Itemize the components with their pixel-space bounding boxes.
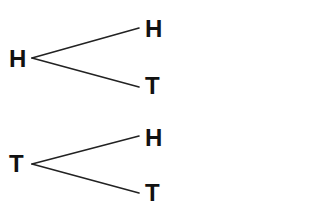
tree-root-t: T H T bbox=[9, 124, 162, 206]
branch-line-lower bbox=[32, 58, 139, 87]
outcome-node-label: T bbox=[145, 179, 160, 206]
tree-root-h: H H T bbox=[9, 15, 162, 99]
outcome-node-label: T bbox=[145, 72, 160, 99]
root-node-label: H bbox=[9, 45, 26, 72]
tree-diagram: H H T T H T bbox=[0, 0, 335, 208]
outcome-node-label: H bbox=[145, 15, 162, 42]
outcome-node-label: H bbox=[145, 124, 162, 151]
branch-line-upper bbox=[32, 136, 139, 164]
root-node-label: T bbox=[9, 150, 24, 177]
tree-diagram-svg: H H T T H T bbox=[0, 0, 335, 208]
branch-line-lower bbox=[32, 164, 139, 193]
branch-line-upper bbox=[32, 28, 139, 58]
